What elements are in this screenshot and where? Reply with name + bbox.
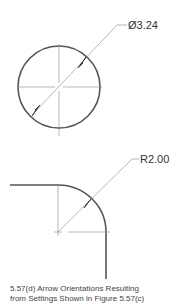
arrowhead-icon: [84, 199, 91, 208]
drawing-canvas: Ø3.24 R2.00: [0, 0, 185, 306]
caption-line-2: from Settings Shown in Figure 5.57(c): [10, 294, 185, 304]
arrowhead-icon: [32, 105, 40, 116]
circle-view: Ø3.24: [17, 19, 158, 136]
diameter-label: Ø3.24: [128, 19, 158, 31]
diameter-leader-line: [33, 25, 127, 114]
radius-label: R2.00: [140, 153, 169, 165]
caption-line-1: 5.57(d) Arrow Orientations Resulting: [10, 284, 185, 294]
figure-caption: 5.57(d) Arrow Orientations Resulting fro…: [10, 284, 185, 303]
radius-leader-line: [58, 159, 139, 232]
arrowhead-icon: [78, 57, 86, 68]
fillet-view: R2.00: [10, 153, 169, 279]
